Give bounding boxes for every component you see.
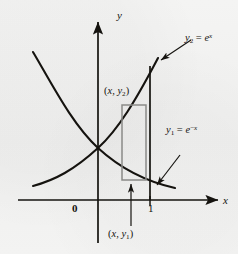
origin-label: 0 [72, 203, 78, 214]
exponential-decay-curve [33, 52, 175, 188]
upper-curve-label: y2 = ex [185, 33, 212, 45]
leader-arrow-lower-curve [157, 155, 180, 185]
x-tick-label-1: 1 [148, 203, 154, 214]
y-axis-label: y [117, 10, 122, 21]
exponential-growth-curve [33, 58, 158, 186]
upper-point-label: (x, y2) [104, 86, 129, 98]
lower-curve-label: y1 = e−x [166, 125, 197, 137]
lower-point-label: (x, y1) [108, 229, 133, 241]
x-axis-label: x [223, 195, 228, 206]
